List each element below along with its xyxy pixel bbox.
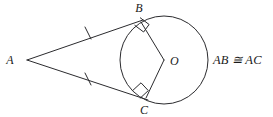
label-vertex-c: C bbox=[140, 103, 149, 117]
tick-mark-ab bbox=[85, 27, 91, 39]
label-vertex-b: B bbox=[135, 1, 143, 15]
label-vertex-a: A bbox=[5, 53, 14, 67]
segment-ac bbox=[27, 60, 148, 100]
congruence-statement: AB ≅ AC bbox=[212, 53, 262, 67]
geometry-canvas: A B C O AB ≅ AC bbox=[0, 0, 273, 117]
segment-ob bbox=[141, 22, 164, 60]
label-center-o: O bbox=[170, 54, 179, 68]
segment-ab bbox=[27, 20, 143, 60]
geometry-figure: A B C O AB ≅ AC bbox=[0, 0, 273, 117]
segment-oc bbox=[146, 60, 164, 98]
